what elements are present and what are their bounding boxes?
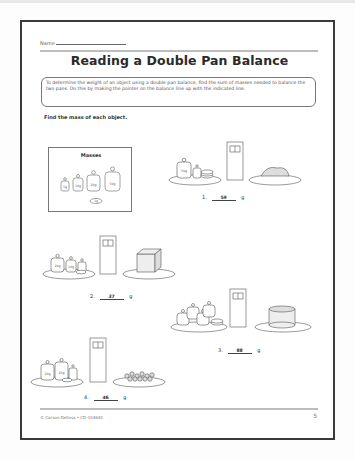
masses-reference-box: Masses 5g 10g 20g 50g 1g: [48, 147, 132, 212]
answer-2-input[interactable]: 37: [100, 294, 124, 300]
name-line: [56, 44, 126, 45]
answer-1: 1. 59 g: [202, 194, 244, 201]
footer-rule: [40, 408, 318, 410]
balance-4-illustration: 20g 20g: [27, 342, 167, 397]
mass-weights-icon: 5g 10g 20g 50g 1g: [49, 148, 133, 213]
answer-2: 2. 37 g: [90, 293, 132, 300]
svg-text:5g: 5g: [63, 185, 67, 189]
svg-text:50g: 50g: [181, 169, 187, 173]
svg-text:20g: 20g: [44, 372, 50, 376]
instructions-box: To determine the weight of an object usi…: [41, 77, 316, 107]
page-number: 5: [313, 412, 317, 419]
answer-4: 4. 46 g: [84, 394, 126, 401]
svg-text:20g: 20g: [90, 183, 96, 187]
svg-text:10g: 10g: [75, 184, 81, 188]
title-rule: [40, 50, 318, 52]
svg-text:20g: 20g: [58, 371, 64, 375]
svg-text:20g: 20g: [54, 264, 60, 268]
task-prompt: Find the mass of each object.: [44, 114, 127, 120]
svg-text:1g: 1g: [94, 199, 98, 203]
copyright: © Carson-Dellosa • CD-104640: [40, 415, 103, 420]
page-top-edge: [0, 0, 355, 3]
svg-text:10g: 10g: [68, 265, 74, 269]
worksheet-page: Name Reading a Double Pan Balance To det…: [20, 20, 335, 440]
answer-1-input[interactable]: 59: [212, 195, 236, 201]
answer-3: 3. 88 g: [218, 347, 260, 354]
name-label: Name: [40, 40, 55, 46]
balance-2-illustration: 20g 10g: [37, 234, 177, 289]
balance-1-illustration: 50g: [167, 140, 307, 190]
balance-3-illustration: [167, 287, 317, 342]
name-field[interactable]: Name: [40, 40, 126, 46]
svg-text:50g: 50g: [109, 182, 115, 186]
answer-4-input[interactable]: 46: [94, 395, 118, 401]
answer-3-input[interactable]: 88: [228, 348, 252, 354]
page-title: Reading a Double Pan Balance: [22, 53, 337, 68]
